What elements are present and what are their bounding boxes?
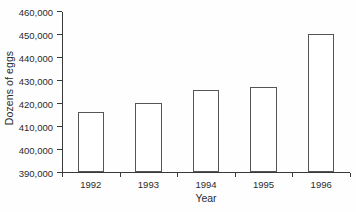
- x-axis-tick: [177, 173, 178, 177]
- bar: [308, 34, 334, 172]
- x-axis-label: 1992: [80, 179, 101, 190]
- x-axis-label: 1994: [195, 179, 216, 190]
- y-axis-tick-label: 400,000: [19, 144, 53, 155]
- y-axis-tick: 440,000: [57, 57, 62, 58]
- x-axis-tick: [235, 173, 236, 177]
- plot-area: 390,000400,000410,000420,000430,000440,0…: [62, 12, 350, 173]
- y-axis-tick: 420,000: [57, 103, 62, 104]
- x-axis-label: 1995: [253, 179, 274, 190]
- bar: [193, 90, 219, 172]
- bar: [78, 112, 104, 172]
- y-axis-tick: 410,000: [57, 126, 62, 127]
- y-axis-tick: 430,000: [57, 80, 62, 81]
- x-axis-label: 1996: [311, 179, 332, 190]
- x-axis-tick: [350, 173, 351, 177]
- y-axis-tick-label: 440,000: [19, 52, 53, 63]
- x-axis-tick: [292, 173, 293, 177]
- y-axis-tick-label: 410,000: [19, 121, 53, 132]
- y-axis-tick-label: 450,000: [19, 29, 53, 40]
- y-axis-tick-label: 420,000: [19, 98, 53, 109]
- y-axis-tick-label: 430,000: [19, 75, 53, 86]
- y-axis-tick-label: 390,000: [19, 167, 53, 178]
- y-axis-tick-label: 460,000: [19, 6, 53, 17]
- y-axis-tick: 460,000: [57, 11, 62, 12]
- x-axis-title: Year: [62, 192, 350, 204]
- bar: [135, 103, 161, 172]
- x-axis-tick: [62, 173, 63, 177]
- x-axis-line: [62, 172, 350, 173]
- y-axis-tick: 450,000: [57, 34, 62, 35]
- x-axis-tick: [120, 173, 121, 177]
- y-axis-tick: 400,000: [57, 149, 62, 150]
- bar: [250, 87, 276, 172]
- y-axis-title-text: Dozens of eggs: [3, 50, 15, 124]
- y-axis-title: Dozens of eggs: [0, 0, 18, 175]
- bar-chart: Dozens of eggs 390,000400,000410,000420,…: [0, 0, 356, 212]
- y-axis-line: [62, 12, 63, 173]
- x-axis-label: 1993: [138, 179, 159, 190]
